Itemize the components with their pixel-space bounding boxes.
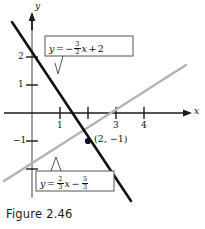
intersection-point-label: (2, −1) — [94, 133, 128, 144]
x-tick-label-1: 1 — [57, 120, 63, 130]
eq2-slope-fraction: 2 3 — [57, 176, 63, 191]
eq2-variable: x — [65, 179, 70, 189]
eq1-lhs: y — [49, 44, 54, 54]
eq1-slope-denominator: 2 — [74, 48, 80, 56]
y-axis-label: y — [35, 1, 40, 11]
x-axis-label: x — [194, 106, 199, 116]
eq2-minus: − — [71, 179, 79, 189]
eq2-intercept-denominator: 3 — [82, 183, 88, 191]
eq1-slope-fraction: 3 2 — [74, 41, 80, 56]
eq2-intercept-fraction: 5 3 — [82, 176, 88, 191]
equation-black-leader — [55, 56, 63, 74]
eq1-intercept: 2 — [98, 44, 104, 54]
equation-gray-label: y = 2 3 x − 5 3 — [40, 176, 89, 191]
eq2-slope-denominator: 3 — [57, 183, 63, 191]
coordinate-plot — [0, 0, 205, 205]
equation-black-label: y = − 3 2 x + 2 — [49, 41, 104, 56]
figure-container: y x 1 3 4 2 1 −1 y = − 3 2 x + 2 y = 2 3… — [0, 0, 205, 229]
eq1-equals: = — [56, 44, 64, 54]
figure-caption: Figure 2.46 — [6, 207, 73, 221]
y-tick-label-2: 2 — [18, 51, 24, 61]
x-tick-label-3: 3 — [113, 120, 119, 130]
eq2-lhs: y — [40, 179, 45, 189]
eq2-intercept-numerator: 5 — [82, 176, 88, 183]
equation-gray-leader — [51, 157, 61, 171]
eq1-plus: + — [88, 44, 96, 54]
eq1-variable: x — [82, 44, 87, 54]
intersection-point-marker — [85, 138, 91, 144]
eq1-slope-numerator: 3 — [74, 41, 80, 48]
eq2-equals: = — [47, 179, 55, 189]
x-tick-label-4: 4 — [141, 120, 147, 130]
y-tick-label-neg1: −1 — [13, 135, 26, 145]
eq1-sign: − — [65, 44, 73, 54]
x-axis-arrowhead — [183, 110, 192, 117]
y-tick-label-1: 1 — [18, 79, 24, 89]
eq2-slope-numerator: 2 — [57, 176, 63, 183]
